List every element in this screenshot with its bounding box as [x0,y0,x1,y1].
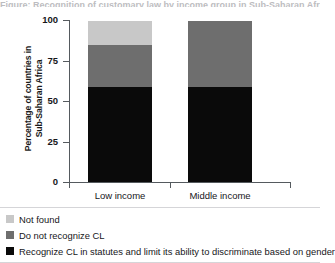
y-tick-label-75: 75 [18,56,58,66]
chart-legend: Not found Do not recognize CL Recognize … [0,207,320,263]
bar-middle-income [188,21,252,182]
y-tick-label-50: 50 [18,96,58,106]
y-tick-mark-75 [63,61,69,62]
legend-label-do-not-recognize: Do not recognize CL [19,230,104,241]
bar-segment-do-not-recognize [188,21,252,87]
legend-item-do-not-recognize: Do not recognize CL [0,227,320,243]
y-tick-label-25: 25 [18,137,58,147]
y-tick-label-0: 0 [18,177,58,187]
x-axis-line [69,182,291,183]
y-tick-label-100: 100 [18,15,58,25]
bar-segment-recognize [188,87,252,182]
legend-swatch-do-not-recognize [6,231,14,239]
y-tick-mark-25 [63,142,69,143]
bar-segment-recognize [88,87,152,182]
x-category-label-middle-income: Middle income [160,190,280,201]
legend-label-recognize: Recognize CL in statutes and limit its a… [19,246,335,257]
legend-label-not-found: Not found [19,214,60,225]
x-tick-mark-right [290,183,291,188]
legend-swatch-not-found [6,215,14,223]
legend-item-not-found: Not found [0,211,320,227]
y-tick-mark-50 [63,101,69,102]
bar-low-income [88,21,152,182]
x-tick-mark-left [69,183,70,188]
y-axis-line [69,20,70,183]
y-tick-mark-100 [63,20,69,21]
legend-item-recognize: Recognize CL in statutes and limit its a… [0,243,320,259]
bar-segment-do-not-recognize [88,45,152,87]
bar-segment-not-found [88,21,152,45]
legend-swatch-recognize [6,247,14,255]
x-tick-mark-middle [170,183,171,188]
plot-area: Percentage of countries in Sub-Saharan A… [0,0,320,205]
